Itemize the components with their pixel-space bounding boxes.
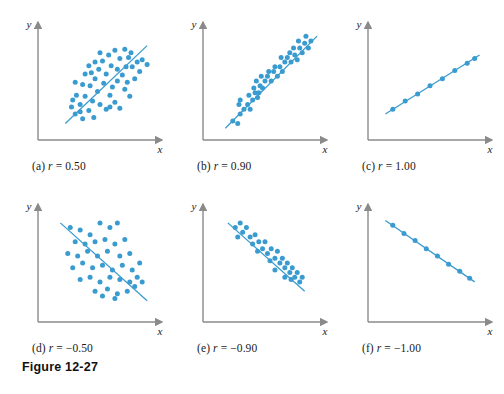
data-point [290, 265, 295, 270]
data-point [300, 275, 305, 280]
y-axis-label: y [26, 200, 32, 212]
data-point [233, 225, 238, 230]
data-point [140, 57, 145, 62]
r-symbol-e: r [213, 342, 218, 354]
data-point [457, 269, 462, 274]
scatter-panel-f: yx (f) r = −1.00 [340, 190, 500, 370]
scatter-panel-a: yx (a) r = 0.50 [10, 8, 170, 188]
data-point [241, 107, 246, 112]
y-axis-label: y [191, 200, 197, 212]
data-point [80, 116, 85, 121]
data-point [110, 84, 115, 89]
data-point [127, 279, 132, 284]
x-axis-label: x [487, 143, 493, 155]
data-point [101, 81, 106, 86]
data-point [74, 93, 79, 98]
data-point [236, 102, 241, 107]
equals-b: = [221, 160, 228, 172]
data-point [279, 55, 284, 60]
panel-caption-a: (a) r = 0.50 [32, 160, 86, 172]
data-point [250, 242, 255, 247]
data-point [117, 277, 122, 282]
panel-label-e: (e) [197, 342, 210, 354]
x-axis-label: x [157, 143, 163, 155]
data-point [285, 261, 290, 266]
r-value-b: 0.90 [231, 160, 252, 172]
data-point [78, 109, 83, 114]
data-point [235, 121, 240, 126]
data-point [280, 256, 285, 261]
data-point [112, 48, 117, 53]
data-point [106, 53, 111, 58]
data-point [65, 251, 70, 256]
data-point [122, 87, 127, 92]
data-point [280, 69, 285, 74]
r-value-f: −1.00 [394, 342, 421, 354]
data-point [260, 86, 265, 91]
data-point [86, 108, 91, 113]
data-point [100, 263, 105, 268]
data-point [129, 50, 134, 55]
data-point [137, 261, 142, 266]
data-point [91, 115, 96, 120]
data-point [245, 102, 250, 107]
data-point [70, 265, 75, 270]
r-symbol-b: r [214, 160, 219, 172]
data-point [107, 225, 112, 230]
data-point [69, 104, 74, 109]
data-point [467, 276, 472, 281]
data-point [78, 102, 83, 107]
data-point [269, 79, 274, 84]
data-point [244, 225, 249, 230]
data-point [126, 55, 131, 60]
data-point [230, 119, 235, 124]
data-point [117, 106, 122, 111]
data-point [291, 45, 296, 50]
data-point [80, 82, 85, 87]
data-point [428, 83, 433, 88]
data-point [140, 279, 145, 284]
data-point [88, 275, 93, 280]
data-point [112, 242, 117, 247]
data-point [132, 284, 137, 289]
data-point [86, 63, 91, 68]
panel-caption-c: (c) r = 1.00 [362, 160, 416, 172]
data-point [117, 253, 122, 258]
data-point [130, 268, 135, 273]
data-point [296, 38, 301, 43]
data-point [107, 275, 112, 280]
data-point [73, 80, 78, 85]
panel-label-c: (c) [362, 160, 375, 172]
data-point [390, 223, 395, 228]
r-symbol-c: r [378, 160, 383, 172]
regression-line [60, 223, 147, 301]
data-point [125, 80, 130, 85]
data-point [424, 246, 429, 251]
data-point [265, 74, 270, 79]
data-point [107, 104, 112, 109]
data-point [115, 291, 120, 296]
data-point [435, 253, 440, 258]
data-point [107, 93, 112, 98]
r-symbol-a: r [48, 160, 53, 172]
data-point [90, 265, 95, 270]
data-point [112, 296, 117, 301]
data-point [292, 53, 297, 58]
data-point [303, 34, 308, 39]
data-point [256, 90, 261, 95]
data-point [275, 249, 280, 254]
plot-area-a: yx [10, 8, 170, 163]
data-point [277, 261, 282, 266]
data-point [285, 55, 290, 60]
data-point [135, 275, 140, 280]
panel-label-b: (b) [197, 160, 211, 172]
data-point [83, 242, 88, 247]
data-point [105, 286, 110, 291]
data-point [295, 57, 300, 62]
data-point [272, 64, 277, 69]
data-point [80, 261, 85, 266]
data-point [122, 237, 127, 242]
data-point [440, 76, 445, 81]
data-point [83, 71, 88, 76]
data-point [102, 237, 107, 242]
